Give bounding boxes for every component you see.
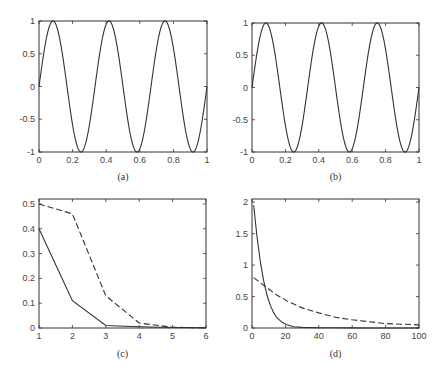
x-tick-label: 60 bbox=[347, 331, 357, 341]
y-tick-label: 0 bbox=[243, 323, 248, 333]
y-tick-label: 1 bbox=[243, 18, 248, 28]
figure: 00.20.40.60.81-1-0.500.51(a) 00.20.40.60… bbox=[0, 0, 447, 389]
x-tick-label: 1 bbox=[416, 155, 421, 165]
y-tick-label: 0 bbox=[243, 83, 248, 93]
series-solid-line bbox=[39, 21, 207, 152]
x-tick-label: 0.6 bbox=[346, 155, 359, 165]
y-tick-label: -1 bbox=[27, 147, 35, 157]
y-tick-label: -0.5 bbox=[232, 115, 248, 125]
x-tick-label: 80 bbox=[381, 331, 391, 341]
x-tick-label: 0.2 bbox=[66, 155, 79, 165]
x-tick-label: 1 bbox=[36, 331, 41, 341]
y-tick-label: 0.5 bbox=[235, 50, 248, 60]
x-tick-label: 0.8 bbox=[167, 155, 180, 165]
y-tick-label: 0.4 bbox=[22, 224, 35, 234]
series-dashed-line bbox=[39, 204, 206, 328]
series-solid-line bbox=[252, 23, 419, 152]
x-tick-label: 2 bbox=[70, 331, 75, 341]
y-tick-label: 0.5 bbox=[22, 49, 35, 59]
panel-c: 12345600.10.20.30.40.5(c) bbox=[22, 199, 208, 360]
panel-caption: (d) bbox=[330, 348, 342, 360]
x-tick-label: 20 bbox=[280, 331, 290, 341]
y-tick-label: 0.5 bbox=[235, 292, 248, 302]
panel-d: 02040608010000.511.52(d) bbox=[235, 197, 426, 360]
x-tick-label: 3 bbox=[103, 331, 108, 341]
y-tick-label: 0.1 bbox=[22, 298, 35, 308]
y-tick-label: 0 bbox=[30, 323, 35, 333]
y-tick-label: 2 bbox=[243, 197, 248, 207]
y-tick-label: 0.2 bbox=[22, 273, 35, 283]
x-tick-label: 0.8 bbox=[379, 155, 392, 165]
y-tick-label: -1 bbox=[240, 147, 248, 157]
y-tick-label: 0.3 bbox=[22, 249, 35, 259]
y-tick-label: 1 bbox=[30, 16, 35, 26]
panel-caption: (b) bbox=[330, 171, 342, 183]
x-tick-label: 5 bbox=[170, 331, 175, 341]
series-dashed-line bbox=[254, 278, 419, 325]
y-tick-label: 1.5 bbox=[235, 229, 248, 239]
x-tick-label: 0.6 bbox=[134, 155, 147, 165]
x-tick-label: 100 bbox=[411, 331, 426, 341]
panel-caption: (a) bbox=[117, 171, 128, 183]
axes-box bbox=[252, 199, 419, 328]
x-tick-label: 0.2 bbox=[279, 155, 292, 165]
panel-a: 00.20.40.60.81-1-0.500.51(a) bbox=[19, 16, 209, 183]
x-tick-label: 0 bbox=[249, 331, 254, 341]
series-solid-line bbox=[39, 229, 206, 328]
y-tick-label: 0.5 bbox=[22, 199, 35, 209]
series-solid-line bbox=[254, 205, 419, 328]
axes-box bbox=[39, 199, 206, 328]
panel-caption: (c) bbox=[117, 348, 128, 360]
x-tick-label: 0.4 bbox=[100, 155, 113, 165]
x-tick-label: 40 bbox=[314, 331, 324, 341]
x-tick-label: 0 bbox=[36, 155, 41, 165]
x-tick-label: 6 bbox=[203, 331, 208, 341]
y-tick-label: -0.5 bbox=[19, 114, 35, 124]
x-tick-label: 4 bbox=[137, 331, 142, 341]
y-tick-label: 1 bbox=[243, 260, 248, 270]
x-tick-label: 0.4 bbox=[313, 155, 326, 165]
panel-b: 00.20.40.60.81-1-0.500.51(b) bbox=[232, 18, 421, 183]
y-tick-label: 0 bbox=[30, 82, 35, 92]
x-tick-label: 1 bbox=[204, 155, 209, 165]
x-tick-label: 0 bbox=[249, 155, 254, 165]
